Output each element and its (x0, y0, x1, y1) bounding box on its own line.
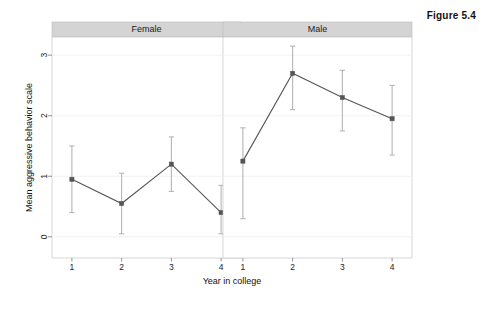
x-axis-title: Year in college (203, 276, 262, 286)
panel-plot-area-male (223, 37, 412, 258)
y-tick-label-2: 2 (39, 113, 49, 118)
y-tick-label-1: 1 (39, 174, 49, 179)
data-point (291, 71, 295, 75)
data-point (241, 159, 245, 163)
x-tick-label-4: 4 (219, 262, 224, 272)
panel-plot-area-female (52, 37, 241, 258)
y-tick-label-3: 3 (39, 53, 49, 58)
x-tick-label-2: 2 (290, 262, 295, 272)
data-point (390, 117, 394, 121)
panel-strip-label-female: Female (131, 24, 161, 34)
x-tick-label-3: 3 (169, 262, 174, 272)
x-tick-label-4: 4 (390, 262, 395, 272)
faceted-line-chart: Female1234Male12340123Mean aggressive be… (0, 0, 488, 320)
data-point (120, 201, 124, 205)
x-tick-label-1: 1 (70, 262, 75, 272)
y-axis-title: Mean aggressive behavior scale (24, 83, 34, 212)
data-point (70, 177, 74, 181)
x-tick-label-1: 1 (241, 262, 246, 272)
data-point (340, 95, 344, 99)
data-point (219, 210, 223, 214)
data-point (169, 162, 173, 166)
panel-male: Male1234 (223, 22, 412, 272)
panel-female: Female1234 (52, 22, 241, 272)
y-axis: 0123 (39, 53, 52, 240)
y-tick-label-0: 0 (39, 234, 49, 239)
x-tick-label-3: 3 (340, 262, 345, 272)
panel-strip-label-male: Male (308, 24, 328, 34)
figure-container: Figure 5.4 Female1234Male12340123Mean ag… (0, 0, 488, 320)
x-tick-label-2: 2 (119, 262, 124, 272)
